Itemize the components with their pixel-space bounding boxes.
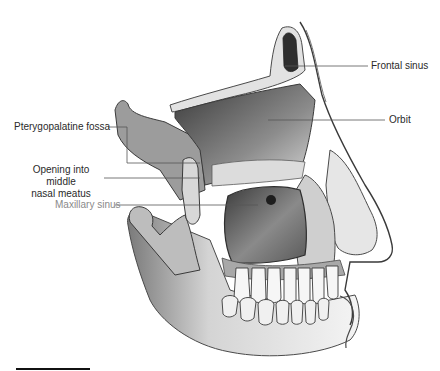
label-pterygopalatine-fossa: Pterygopalatine fossa (14, 121, 110, 133)
ostium (266, 195, 276, 205)
label-opening-middle-nasal-meatus: Opening into middle nasal meatus (18, 164, 104, 200)
pterygoid-process (182, 158, 200, 225)
label-frontal-sinus: Frontal sinus (371, 60, 428, 72)
label-maxillary-sinus: Maxillary sinus (55, 199, 121, 211)
orbit-floor (212, 160, 305, 186)
label-orbit: Orbit (389, 114, 411, 126)
label-opening-line1: Opening into middle (18, 164, 104, 188)
maxillary-sinus-cavity (225, 187, 307, 264)
